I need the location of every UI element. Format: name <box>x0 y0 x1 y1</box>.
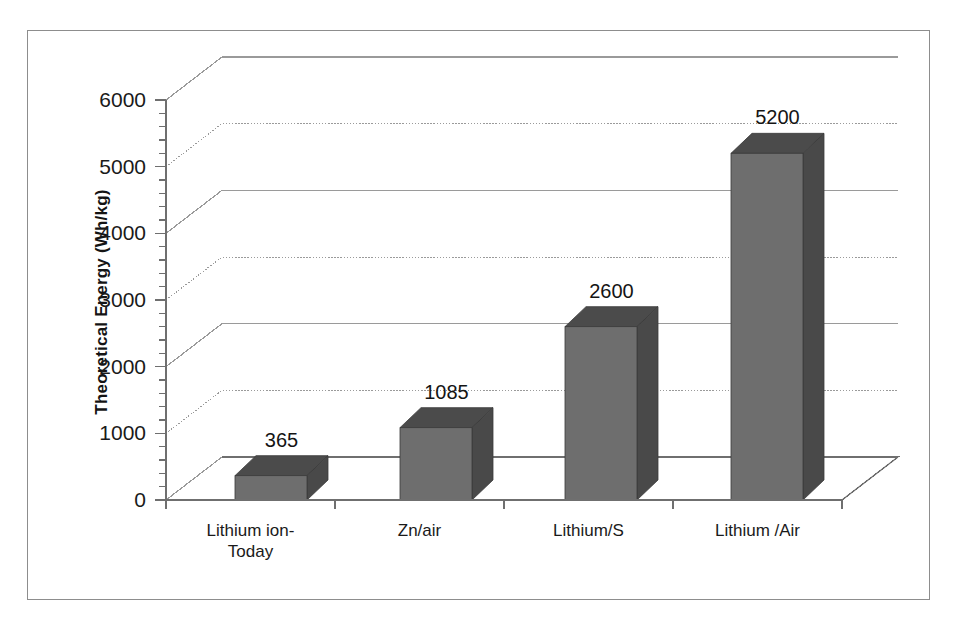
bar-column <box>731 133 824 500</box>
bar-value-label: 2600 <box>552 281 672 301</box>
x-axis-tick-label-line: Lithium ion- <box>161 520 341 541</box>
y-axis-tick-label: 5000 <box>76 156 146 177</box>
chart-screenshot: Theoretical Energy (Wh/kg) 6000500040003… <box>0 0 960 632</box>
x-axis-tick-label: Lithium/S <box>499 520 679 541</box>
bar-side-face <box>803 133 824 500</box>
bar-front-face <box>400 428 472 500</box>
x-axis-tick-label-line: Today <box>161 541 341 562</box>
y-axis-tick-label: 6000 <box>76 89 146 110</box>
bar-front-face <box>731 153 803 500</box>
x-axis-tick-label: Lithium ion-Today <box>161 520 341 563</box>
floor-right-edge <box>842 457 898 500</box>
y-axis-tick-label: 1000 <box>76 422 146 443</box>
x-axis-tick-label: Lithium /Air <box>668 520 848 541</box>
bar-front-face <box>565 327 637 500</box>
bar-front-face <box>235 476 307 500</box>
y-axis-tick-label: 0 <box>76 489 146 510</box>
bar-column <box>400 408 493 500</box>
y-axis-tick-label: 2000 <box>76 356 146 377</box>
y-axis-tick-label: 4000 <box>76 222 146 243</box>
y-axis-tick-label: 3000 <box>76 289 146 310</box>
bar-column <box>235 456 328 500</box>
x-axis-tick-label-line: Lithium/S <box>499 520 679 541</box>
y-axis-ticks-group <box>155 100 166 500</box>
bar-value-label: 1085 <box>387 382 507 402</box>
x-axis-tick-label-line: Zn/air <box>330 520 510 541</box>
bar-column <box>565 307 658 500</box>
x-axis-ticks-group <box>166 500 842 509</box>
bar-value-label: 5200 <box>718 107 838 127</box>
bar-value-label: 365 <box>222 430 342 450</box>
x-axis-tick-label-line: Lithium /Air <box>668 520 848 541</box>
x-axis-tick-label: Zn/air <box>330 520 510 541</box>
gridline <box>166 57 898 100</box>
bar-side-face <box>637 307 658 500</box>
